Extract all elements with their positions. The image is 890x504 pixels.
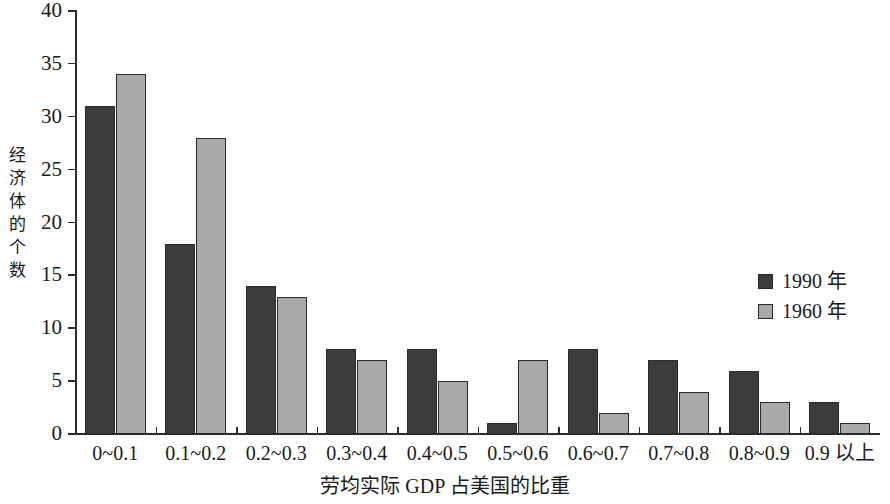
bar [326, 349, 356, 434]
bar-group [165, 10, 226, 434]
legend-item: 1960 年 [758, 296, 847, 326]
x-axis-category-label: 0.9 以上 [800, 441, 881, 465]
bar [487, 423, 517, 434]
legend-swatch [758, 274, 773, 289]
x-axis-tick-mark [236, 427, 238, 433]
x-axis-category-label: 0.7~0.8 [639, 441, 720, 465]
bar [679, 392, 709, 434]
x-axis-category-label: 0.2~0.3 [236, 441, 317, 465]
bar-group [568, 10, 629, 434]
x-axis-tick-mark [156, 427, 158, 433]
bar [407, 349, 437, 434]
y-axis-tick-label: 40 [28, 0, 62, 21]
y-axis-tick-label: 25 [28, 159, 62, 180]
y-axis-tick-mark [68, 222, 76, 224]
x-axis-category-label: 0.4~0.5 [397, 441, 478, 465]
y-axis-tick-mark [68, 116, 76, 118]
bar-group [326, 10, 387, 434]
bar [729, 371, 759, 434]
x-axis-title: 劳均实际 GDP 占美国的比重 [0, 474, 890, 498]
y-axis-title: 经济体的个数 [4, 144, 30, 282]
x-axis-category-label: 0.3~0.4 [317, 441, 398, 465]
bar-chart: 经济体的个数 0510152025303540 劳均实际 GDP 占美国的比重 … [0, 0, 890, 504]
chart-legend: 1990 年1960 年 [758, 266, 847, 326]
x-axis-tick-mark [719, 427, 721, 433]
bar-group [246, 10, 307, 434]
y-axis-tick-label: 20 [28, 212, 62, 233]
y-axis-tick-mark [68, 63, 76, 65]
bar [568, 349, 598, 434]
x-axis-category-label: 0~0.1 [75, 441, 156, 465]
bar-group [85, 10, 146, 434]
x-axis-tick-mark [639, 427, 641, 433]
legend-label: 1990 年 [782, 271, 847, 291]
y-axis-tick-label: 35 [28, 53, 62, 74]
bar [165, 244, 195, 434]
bar-group [487, 10, 548, 434]
bar [760, 402, 790, 434]
bar [196, 138, 226, 434]
bar-group [407, 10, 468, 434]
x-axis-tick-mark [317, 427, 319, 433]
x-axis-category-label: 0.8~0.9 [719, 441, 800, 465]
bar [116, 74, 146, 434]
y-axis-tick-mark [68, 433, 76, 435]
y-axis-tick-label: 15 [28, 264, 62, 285]
bar [246, 286, 276, 434]
legend-swatch [758, 304, 773, 319]
bar [438, 381, 468, 434]
y-axis-tick-mark [68, 380, 76, 382]
legend-label: 1960 年 [782, 301, 847, 321]
x-axis-tick-mark [478, 427, 480, 433]
bar [518, 360, 548, 434]
y-axis-tick-label: 30 [28, 106, 62, 127]
bar [357, 360, 387, 434]
y-axis-tick-mark [68, 10, 76, 12]
y-axis-tick-mark [68, 274, 76, 276]
bar-group [809, 10, 870, 434]
bar-group [648, 10, 709, 434]
bar [809, 402, 839, 434]
x-axis-category-label: 0.5~0.6 [478, 441, 559, 465]
x-axis-tick-mark [558, 427, 560, 433]
y-axis-tick-label: 0 [28, 423, 62, 444]
bar [85, 106, 115, 434]
y-axis-tick-label: 10 [28, 317, 62, 338]
x-axis-tick-mark [800, 427, 802, 433]
bar [277, 297, 307, 434]
plot-area [75, 10, 880, 434]
x-axis-category-label: 0.6~0.7 [558, 441, 639, 465]
y-axis-tick-mark [68, 327, 76, 329]
bar [648, 360, 678, 434]
x-axis-tick-mark [397, 427, 399, 433]
y-axis-tick-label: 5 [28, 370, 62, 391]
bar [599, 413, 629, 434]
x-axis-category-label: 0.1~0.2 [156, 441, 237, 465]
bar-group [729, 10, 790, 434]
y-axis-tick-mark [68, 169, 76, 171]
legend-item: 1990 年 [758, 266, 847, 296]
y-axis-tick-labels: 0510152025303540 [28, 0, 62, 504]
bar [840, 423, 870, 434]
